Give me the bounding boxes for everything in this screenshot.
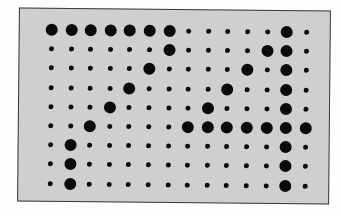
small-dot bbox=[224, 183, 229, 188]
small-dot bbox=[107, 143, 112, 148]
small-dot bbox=[244, 106, 249, 111]
small-dot bbox=[225, 106, 230, 111]
large-dot bbox=[260, 122, 272, 134]
small-dot bbox=[225, 67, 230, 72]
large-dot bbox=[280, 84, 292, 96]
large-dot bbox=[104, 24, 116, 36]
small-dot bbox=[126, 162, 131, 167]
small-dot bbox=[205, 163, 210, 168]
small-dot bbox=[107, 181, 112, 186]
small-dot bbox=[245, 87, 250, 92]
large-dot bbox=[64, 139, 76, 151]
small-dot bbox=[205, 182, 210, 187]
small-dot bbox=[264, 68, 269, 73]
small-dot bbox=[108, 66, 113, 71]
small-dot bbox=[303, 107, 308, 112]
small-dot bbox=[205, 86, 210, 91]
small-dot bbox=[146, 143, 151, 148]
small-dot bbox=[304, 49, 309, 54]
small-dot bbox=[264, 106, 269, 111]
small-dot bbox=[303, 145, 308, 150]
large-dot bbox=[143, 63, 155, 75]
large-dot bbox=[221, 83, 233, 95]
large-dot bbox=[202, 121, 214, 133]
small-dot bbox=[185, 182, 190, 187]
small-dot bbox=[224, 144, 229, 149]
small-dot bbox=[245, 29, 250, 34]
small-dot bbox=[304, 30, 309, 35]
large-dot bbox=[46, 24, 58, 36]
large-dot bbox=[163, 25, 175, 37]
large-dot bbox=[64, 158, 76, 170]
large-dot bbox=[281, 26, 293, 38]
small-dot bbox=[88, 104, 93, 109]
small-dot bbox=[146, 105, 151, 110]
small-dot bbox=[68, 85, 73, 90]
small-dot bbox=[48, 162, 53, 167]
small-dot bbox=[244, 144, 249, 149]
dot-matrix-panel bbox=[17, 8, 331, 205]
large-dot bbox=[280, 103, 292, 115]
small-dot bbox=[146, 163, 151, 168]
small-dot bbox=[206, 48, 211, 53]
small-dot bbox=[224, 163, 229, 168]
small-dot bbox=[186, 29, 191, 34]
small-dot bbox=[226, 29, 231, 34]
small-dot bbox=[108, 47, 113, 52]
large-dot bbox=[104, 101, 116, 113]
small-dot bbox=[205, 144, 210, 149]
small-dot bbox=[245, 48, 250, 53]
small-dot bbox=[48, 104, 53, 109]
small-dot bbox=[88, 66, 93, 71]
dot-grid bbox=[18, 9, 330, 204]
small-dot bbox=[186, 48, 191, 53]
large-dot bbox=[144, 25, 156, 37]
small-dot bbox=[265, 29, 270, 34]
small-dot bbox=[68, 104, 73, 109]
small-dot bbox=[303, 87, 308, 92]
small-dot bbox=[185, 144, 190, 149]
small-dot bbox=[146, 124, 151, 129]
small-dot bbox=[48, 142, 53, 147]
large-dot bbox=[124, 82, 136, 94]
small-dot bbox=[68, 123, 73, 128]
large-dot bbox=[280, 141, 292, 153]
large-dot bbox=[64, 178, 76, 190]
small-dot bbox=[185, 163, 190, 168]
large-dot bbox=[221, 121, 233, 133]
small-dot bbox=[166, 144, 171, 149]
small-dot bbox=[206, 67, 211, 72]
small-dot bbox=[87, 181, 92, 186]
small-dot bbox=[87, 162, 92, 167]
small-dot bbox=[69, 47, 74, 52]
small-dot bbox=[186, 67, 191, 72]
large-dot bbox=[280, 160, 292, 172]
small-dot bbox=[166, 124, 171, 129]
large-dot bbox=[280, 64, 292, 76]
small-dot bbox=[186, 105, 191, 110]
small-dot bbox=[304, 68, 309, 73]
small-dot bbox=[165, 182, 170, 187]
canvas bbox=[0, 0, 341, 216]
small-dot bbox=[303, 183, 308, 188]
small-dot bbox=[244, 164, 249, 169]
small-dot bbox=[49, 85, 54, 90]
small-dot bbox=[87, 143, 92, 148]
large-dot bbox=[241, 122, 253, 134]
small-dot bbox=[206, 29, 211, 34]
small-dot bbox=[107, 85, 112, 90]
large-dot bbox=[163, 44, 175, 56]
small-dot bbox=[48, 181, 53, 186]
large-dot bbox=[279, 180, 291, 192]
large-dot bbox=[300, 122, 312, 134]
small-dot bbox=[49, 66, 54, 71]
small-dot bbox=[127, 66, 132, 71]
small-dot bbox=[127, 124, 132, 129]
small-dot bbox=[147, 86, 152, 91]
small-dot bbox=[48, 123, 53, 128]
large-dot bbox=[241, 64, 253, 76]
small-dot bbox=[186, 86, 191, 91]
small-dot bbox=[264, 87, 269, 92]
small-dot bbox=[126, 182, 131, 187]
small-dot bbox=[127, 105, 132, 110]
